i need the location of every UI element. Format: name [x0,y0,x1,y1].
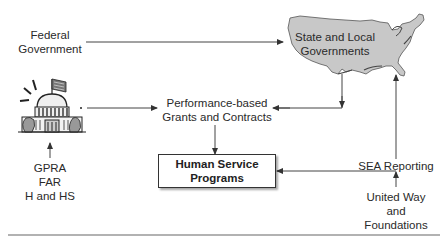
united-way-foundations-label: United Way and Foundations [364,190,427,232]
human-service-programs-box: Human Service Programs [158,154,276,188]
federal-government-label: Federal Government [18,28,81,56]
performance-grants-label: Performance-based Grants and Contracts [162,96,271,124]
sea-reporting-label: SEA Reporting [358,159,433,173]
state-local-governments-label: State and Local Governments [295,30,375,58]
regulations-label: GPRA FAR H and HS [25,161,75,203]
capitol-building-icon [18,79,86,132]
